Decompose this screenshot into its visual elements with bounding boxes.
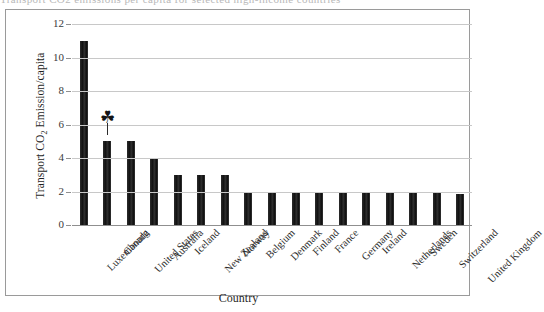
gridline-4 [72,158,472,159]
x-label-switzerland: Switzerland [456,227,499,270]
bar-canada[interactable] [103,141,111,225]
bar-new-zealand[interactable] [197,175,205,225]
bar-finland[interactable] [292,193,300,225]
bar-norway[interactable] [221,175,229,225]
y-tick-mark-12 [66,24,71,25]
gridline-10 [72,58,472,59]
y-tick-mark-4 [66,158,71,159]
gridline-6 [72,125,472,126]
x-axis-title: Country [6,291,471,306]
y-tick-label-0: 0 [38,219,64,230]
gridline-8 [72,91,472,92]
x-axis-category-labels: LuxembourgCanadaUnited StatesAustraliaIc… [72,227,472,297]
y-tick-mark-10 [66,58,71,59]
y-tick-mark-6 [66,125,71,126]
bar-netherlands[interactable] [386,193,394,225]
y-tick-mark-0 [66,225,71,226]
gridline-12 [72,24,472,25]
bar-germany[interactable] [339,193,347,225]
caption-remnant-text: Transport CO2 emissions per capita for s… [0,0,341,5]
bar-belgium[interactable] [244,193,252,225]
bar-switzerland[interactable] [433,193,441,225]
figure-frame: Transport CO2 Emission/capita 121086420 … [5,9,470,296]
bar-united-states[interactable] [127,141,135,225]
plot-area: 121086420 ☘ [72,24,472,225]
bar-united-kingdom[interactable] [456,194,464,225]
y-tick-label-6: 6 [38,119,64,130]
caption-remnant: Transport CO2 emissions per capita for s… [0,0,485,7]
x-label-canada: Canada [122,227,152,257]
y-tick-label-12: 12 [38,18,64,29]
y-tick-mark-2 [66,192,71,193]
gridline-0 [72,225,472,226]
y-tick-mark-8 [66,91,71,92]
bar-france[interactable] [315,193,323,225]
gridline-2 [72,192,472,193]
y-tick-label-4: 4 [38,152,64,163]
bar-ireland[interactable] [362,193,370,225]
bar-luxembourg[interactable] [80,41,88,225]
bar-denmark[interactable] [268,193,276,225]
y-tick-label-10: 10 [38,52,64,63]
y-tick-label-2: 2 [38,186,64,197]
bar-sweden[interactable] [409,193,417,225]
bar-iceland[interactable] [174,175,182,225]
y-tick-label-8: 8 [38,85,64,96]
